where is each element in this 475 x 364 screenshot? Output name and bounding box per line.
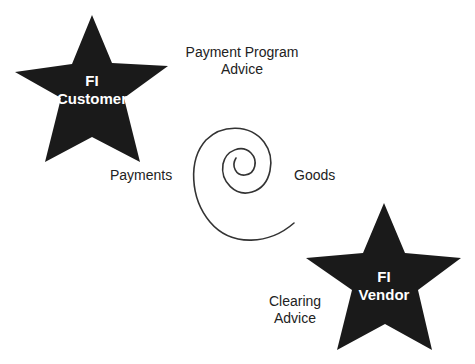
- payments-label: Payments: [110, 167, 172, 184]
- goods-label: Goods: [294, 167, 335, 184]
- vendor-star-line1: FI: [344, 268, 424, 286]
- vendor-star-line2: Vendor: [344, 286, 424, 304]
- customer-star-line1: FI: [52, 72, 132, 90]
- payment-program-advice-label: Payment Program Advice: [172, 44, 312, 78]
- clearing-advice-label: Clearing Advice: [262, 293, 328, 327]
- vendor-star: FI Vendor: [344, 268, 424, 304]
- customer-star-line2: Customer: [52, 90, 132, 108]
- spiral-connector: [194, 128, 294, 240]
- customer-star: FI Customer: [52, 72, 132, 108]
